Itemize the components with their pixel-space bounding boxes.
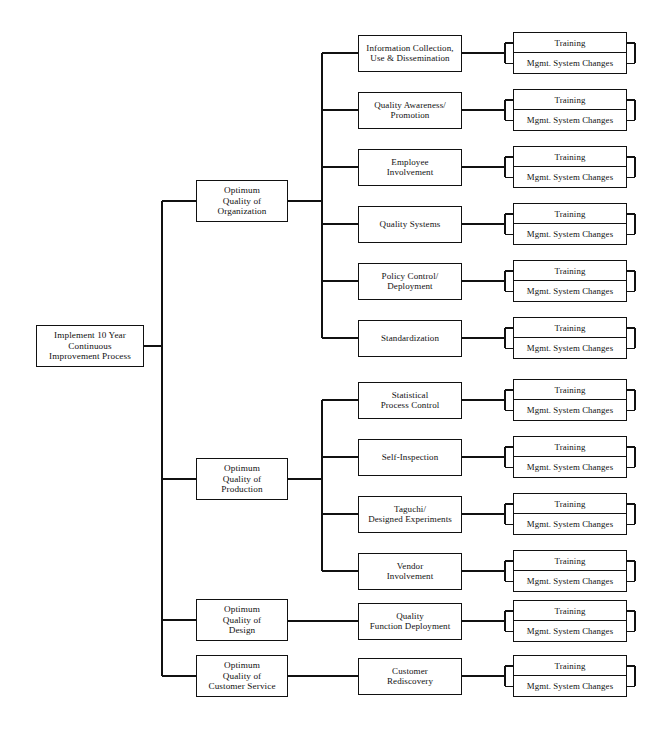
node-taguchi[interactable]: Taguchi/ Designed Experiments: [358, 496, 462, 533]
leaf-bracket-right-9: [634, 561, 636, 581]
node-root-label: Implement 10 Year Continuous Improvement…: [47, 330, 133, 363]
leaf-training-2[interactable]: Training: [513, 146, 627, 168]
node-root[interactable]: Implement 10 Year Continuous Improvement…: [36, 325, 144, 367]
leaf-mgmt-system-changes-11[interactable]: Mgmt. System Changes: [513, 675, 627, 697]
leaf-training-6-label: Training: [553, 385, 588, 395]
leaf-stub-right-mgmt-3: [627, 234, 635, 236]
leaf-stub-left-training-11: [505, 665, 513, 667]
leaf-training-8[interactable]: Training: [513, 493, 627, 515]
node-design-label: Optimum Quality of Design: [221, 604, 264, 637]
leaf-stub-left-mgmt-10: [505, 631, 513, 633]
leaf-training-10[interactable]: Training: [513, 600, 627, 622]
leaf-stub-right-training-0: [627, 42, 635, 44]
node-customer-service[interactable]: Optimum Quality of Customer Service: [196, 655, 288, 697]
leaf-stub-left-training-1: [505, 99, 513, 101]
leaf-mgmt-system-changes-5[interactable]: Mgmt. System Changes: [513, 337, 627, 359]
leaf-mgmt-system-changes-2-label: Mgmt. System Changes: [525, 172, 615, 182]
leaf-stub-right-mgmt-0: [627, 63, 635, 65]
leaf-training-0[interactable]: Training: [513, 32, 627, 54]
link-standardization-to-leaves: [462, 337, 505, 339]
leaf-mgmt-system-changes-4[interactable]: Mgmt. System Changes: [513, 280, 627, 302]
leaf-mgmt-system-changes-1[interactable]: Mgmt. System Changes: [513, 109, 627, 131]
leaf-bracket-right-8: [634, 504, 636, 524]
leaf-stub-left-training-4: [505, 270, 513, 272]
leaf-training-3-label: Training: [553, 209, 588, 219]
leaf-mgmt-system-changes-6[interactable]: Mgmt. System Changes: [513, 399, 627, 421]
node-employee-involvement-label: Employee Involvement: [385, 157, 436, 178]
leaf-training-7[interactable]: Training: [513, 436, 627, 458]
link-production-child-1: [322, 456, 358, 458]
link-organization-child-5: [322, 337, 358, 339]
leaf-training-1[interactable]: Training: [513, 89, 627, 111]
link-trunk-to-branch-0: [162, 200, 196, 202]
node-policy-control-label: Policy Control/ Deployment: [380, 271, 441, 292]
link-self-inspection-to-leaves: [462, 456, 505, 458]
leaf-stub-left-mgmt-9: [505, 581, 513, 583]
node-statistical-process-control[interactable]: Statistical Process Control: [358, 382, 462, 419]
node-information-collection[interactable]: Information Collection, Use & Disseminat…: [358, 35, 462, 72]
node-self-inspection[interactable]: Self-Inspection: [358, 439, 462, 476]
leaf-mgmt-system-changes-7[interactable]: Mgmt. System Changes: [513, 456, 627, 478]
leaf-bracket-right-4: [634, 271, 636, 291]
leaf-training-11[interactable]: Training: [513, 655, 627, 677]
leaf-bracket-right-6: [634, 390, 636, 410]
node-quality-systems[interactable]: Quality Systems: [358, 206, 462, 243]
leaf-bracket-right-7: [634, 447, 636, 467]
node-employee-involvement[interactable]: Employee Involvement: [358, 149, 462, 186]
leaf-stub-left-training-10: [505, 610, 513, 612]
leaf-mgmt-system-changes-2[interactable]: Mgmt. System Changes: [513, 166, 627, 188]
node-organization[interactable]: Optimum Quality of Organization: [196, 180, 288, 222]
leaf-stub-right-training-4: [627, 270, 635, 272]
link-quality-awareness-to-leaves: [462, 109, 505, 111]
leaf-stub-right-mgmt-5: [627, 348, 635, 350]
node-quality-awareness[interactable]: Quality Awareness/ Promotion: [358, 92, 462, 129]
leaf-mgmt-system-changes-6-label: Mgmt. System Changes: [525, 405, 615, 415]
leaf-mgmt-system-changes-11-label: Mgmt. System Changes: [525, 681, 615, 691]
leaf-training-8-label: Training: [553, 499, 588, 509]
spine-production: [321, 400, 323, 571]
leaf-training-0-label: Training: [553, 38, 588, 48]
link-organization-to-spine: [288, 200, 322, 202]
leaf-mgmt-system-changes-10[interactable]: Mgmt. System Changes: [513, 620, 627, 642]
leaf-training-5[interactable]: Training: [513, 317, 627, 339]
leaf-stub-left-mgmt-5: [505, 348, 513, 350]
node-quality-function-deployment-label: Quality Function Deployment: [368, 611, 453, 632]
leaf-mgmt-system-changes-0[interactable]: Mgmt. System Changes: [513, 52, 627, 74]
link-taguchi-to-leaves: [462, 513, 505, 515]
node-organization-label: Optimum Quality of Organization: [216, 185, 269, 218]
link-quality-systems-to-leaves: [462, 223, 505, 225]
node-production-label: Optimum Quality of Production: [219, 463, 264, 496]
node-customer-rediscovery[interactable]: Customer Rediscovery: [358, 658, 462, 695]
leaf-stub-right-training-6: [627, 389, 635, 391]
leaf-training-9[interactable]: Training: [513, 550, 627, 572]
leaf-bracket-right-1: [634, 100, 636, 120]
node-quality-function-deployment[interactable]: Quality Function Deployment: [358, 603, 462, 640]
leaf-training-3[interactable]: Training: [513, 203, 627, 225]
leaf-stub-right-training-3: [627, 213, 635, 215]
node-standardization[interactable]: Standardization: [358, 320, 462, 357]
leaf-mgmt-system-changes-3[interactable]: Mgmt. System Changes: [513, 223, 627, 245]
leaf-stub-right-mgmt-11: [627, 686, 635, 688]
leaf-mgmt-system-changes-8[interactable]: Mgmt. System Changes: [513, 513, 627, 535]
leaf-mgmt-system-changes-0-label: Mgmt. System Changes: [525, 58, 615, 68]
node-design[interactable]: Optimum Quality of Design: [196, 599, 288, 641]
leaf-bracket-right-11: [634, 666, 636, 686]
leaf-stub-left-mgmt-1: [505, 120, 513, 122]
leaf-stub-left-mgmt-6: [505, 410, 513, 412]
leaf-training-6[interactable]: Training: [513, 379, 627, 401]
leaf-stub-left-mgmt-7: [505, 467, 513, 469]
node-quality-awareness-label: Quality Awareness/ Promotion: [372, 100, 448, 121]
link-root-to-trunk: [144, 345, 162, 347]
leaf-stub-right-training-11: [627, 665, 635, 667]
leaf-mgmt-system-changes-9[interactable]: Mgmt. System Changes: [513, 570, 627, 592]
node-policy-control[interactable]: Policy Control/ Deployment: [358, 263, 462, 300]
node-production[interactable]: Optimum Quality of Production: [196, 458, 288, 500]
node-vendor-involvement[interactable]: Vendor Involvement: [358, 553, 462, 590]
leaf-stub-left-training-3: [505, 213, 513, 215]
leaf-training-4[interactable]: Training: [513, 260, 627, 282]
link-customer-service-direct: [288, 675, 358, 677]
link-policy-control-to-leaves: [462, 280, 505, 282]
leaf-stub-right-training-8: [627, 503, 635, 505]
link-employee-involvement-to-leaves: [462, 166, 505, 168]
leaf-stub-right-mgmt-2: [627, 177, 635, 179]
